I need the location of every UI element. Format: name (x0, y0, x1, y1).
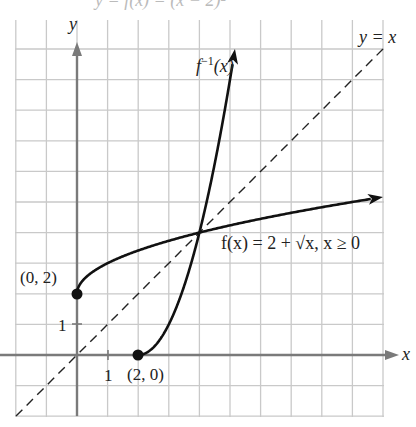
x-axis-arrow-icon (385, 350, 399, 360)
x-tick-label-1: 1 (104, 366, 113, 385)
point-label-2-0: (2, 0) (127, 365, 164, 384)
x-axis-label: x (401, 344, 410, 364)
function-inverse-graph: y = f(x) = (x − 2)² y x 1 1 (0, 2) (2, 0… (0, 0, 416, 427)
y-axis-label: y (67, 14, 77, 34)
y-axis (72, 42, 82, 416)
f-label: f(x) = 2 + √x, x ≥ 0 (221, 233, 360, 254)
f-inverse-label-arg: (x) (214, 56, 234, 77)
y-tick-label-1: 1 (58, 316, 67, 335)
point-2-0 (133, 350, 144, 361)
grid (15, 20, 384, 417)
f-inverse-curve (138, 64, 232, 355)
point-0-2 (72, 289, 83, 300)
f-inverse-label: f−1(x) (196, 54, 234, 77)
point-label-0-2: (0, 2) (20, 268, 57, 287)
top-caption-partial: y = f(x) = (x − 2)² (93, 0, 226, 11)
identity-label: y = x (357, 27, 396, 47)
f-inverse-label-sup: −1 (201, 54, 214, 68)
